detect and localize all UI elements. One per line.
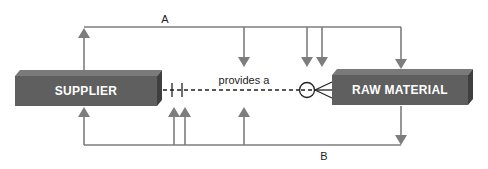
entity-side-face (468, 69, 473, 105)
entity-top-face (15, 70, 162, 76)
er-diagram: A B provides a (0, 0, 488, 169)
entity-raw-material[interactable]: RAW MATERIAL (332, 69, 473, 105)
relationship-label: provides a (219, 74, 271, 86)
relationship-provides-a: provides a (156, 74, 332, 98)
entity-label: SUPPLIER (55, 84, 117, 98)
arrowhead-down-icon (301, 57, 313, 67)
arrowhead-up-icon (168, 107, 180, 117)
arrowhead-up-icon (78, 28, 90, 38)
entity-top-face (332, 69, 473, 75)
arrowhead-up-icon (238, 107, 250, 117)
flow-a: A (78, 13, 407, 70)
entity-supplier[interactable]: SUPPLIER (15, 70, 162, 106)
cardinality-many-crowfoot-icon (315, 82, 332, 98)
entity-side-face (157, 70, 162, 106)
flow-a-label: A (161, 13, 169, 25)
flow-b-label: B (320, 150, 327, 162)
arrowhead-down-icon (316, 57, 328, 67)
arrowhead-down-icon (238, 57, 250, 67)
arrowhead-down-icon (395, 135, 407, 145)
entity-label: RAW MATERIAL (352, 83, 448, 97)
arrowhead-up-icon (78, 107, 90, 117)
flow-b: B (78, 106, 407, 162)
arrowhead-up-icon (179, 107, 191, 117)
arrowhead-down-icon (395, 59, 407, 69)
